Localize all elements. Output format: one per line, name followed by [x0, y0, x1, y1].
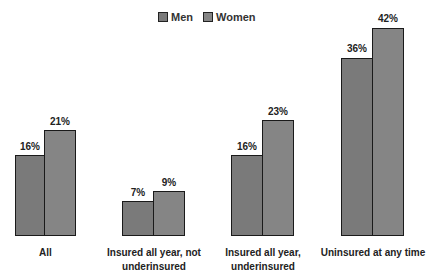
plot-area: 16% 21% 7% 9% 16% 23% 36% 42% All Insure… — [0, 0, 428, 279]
value-label-women-insured-underinsured: 23% — [258, 106, 298, 117]
bar-women-insured-underinsured — [262, 120, 294, 236]
value-label-men-uninsured: 36% — [337, 43, 377, 54]
category-label-insured-underinsured: Insured all year, underinsured — [212, 246, 314, 274]
category-label-line1: Insured all year, not — [98, 246, 210, 260]
category-label-uninsured-text: Uninsured at any time — [321, 247, 425, 258]
bar-men-all — [15, 155, 45, 236]
category-label-line2: underinsured — [212, 260, 314, 274]
bar-men-insured-underinsured — [231, 155, 263, 236]
value-label-men-all: 16% — [10, 141, 50, 152]
bar-men-insured-not-underinsured — [122, 201, 154, 236]
value-label-women-all: 21% — [40, 116, 80, 127]
bar-women-uninsured — [372, 28, 404, 236]
value-label-men-insured-not-underinsured: 7% — [118, 187, 158, 198]
category-label-insured-not-underinsured: Insured all year, not underinsured — [98, 246, 210, 274]
value-label-women-insured-not-underinsured: 9% — [149, 177, 189, 188]
category-label-all: All — [15, 246, 76, 260]
bar-men-uninsured — [341, 58, 373, 236]
value-label-men-insured-underinsured: 16% — [227, 141, 267, 152]
category-label-line1: Insured all year, — [212, 246, 314, 260]
category-label-line2: underinsured — [98, 260, 210, 274]
value-label-women-uninsured: 42% — [368, 13, 408, 24]
category-label-all-text: All — [39, 247, 52, 258]
category-label-uninsured: Uninsured at any time — [318, 246, 428, 260]
